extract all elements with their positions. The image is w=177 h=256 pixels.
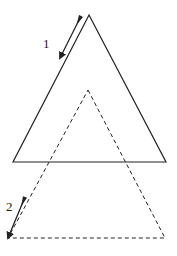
arrow-2-label: 2 — [6, 199, 13, 214]
arrow-2-tail-icon — [21, 196, 27, 206]
solid-triangle — [13, 15, 166, 162]
arrow-1-label: 1 — [43, 36, 50, 51]
arrow-1-group: 1 — [43, 15, 83, 58]
arrow-2-group: 2 — [6, 196, 27, 238]
triangle-diagram: 1 2 — [0, 0, 177, 256]
arrow-1-tail-icon — [77, 15, 83, 25]
dashed-triangle — [8, 90, 165, 238]
